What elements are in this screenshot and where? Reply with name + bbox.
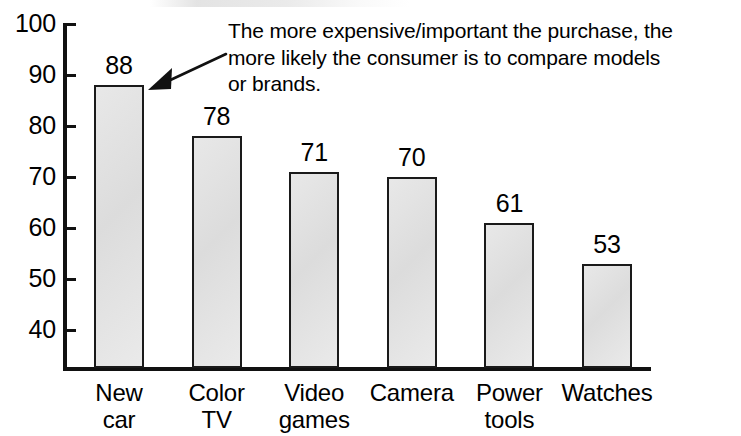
- annotation-callout: The more expensive/important the purchas…: [228, 18, 733, 98]
- bar-value-label: 78: [167, 104, 267, 129]
- annotation-line-1: The more expensive/important the purchas…: [228, 18, 733, 45]
- bar-value-label: 61: [459, 191, 559, 216]
- bar: [94, 85, 144, 368]
- bar-value-label: 71: [264, 140, 364, 165]
- x-axis-category-label: Camera: [358, 379, 466, 406]
- bar: [582, 264, 632, 368]
- bar-value-label: 70: [362, 145, 462, 170]
- bar-chart: 100908070605040 88New car78Color TV71Vid…: [0, 0, 741, 436]
- annotation-line-3: or brands.: [228, 71, 733, 98]
- x-axis-category-label: Watches: [553, 379, 661, 406]
- bar: [484, 223, 534, 368]
- annotation-line-2: more likely the consumer is to compare m…: [228, 45, 733, 72]
- bar-value-label: 53: [557, 232, 657, 257]
- x-axis-category-label: New car: [65, 379, 173, 433]
- x-axis-category-label: Power tools: [455, 379, 563, 433]
- x-axis-category-label: Color TV: [163, 379, 271, 433]
- bar: [387, 177, 437, 368]
- x-axis-category-label: Video games: [260, 379, 368, 433]
- annotation-arrow-icon: [138, 48, 238, 98]
- bar: [192, 136, 242, 368]
- bar: [289, 172, 339, 368]
